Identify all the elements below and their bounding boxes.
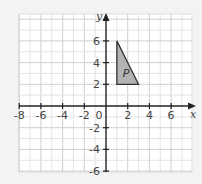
coordinate-grid: P -8-6-4-20246-6-4-2246 x y — [0, 0, 202, 184]
x-tick-label: 2 — [124, 109, 131, 122]
x-tick-label: -6 — [35, 109, 46, 122]
y-tick-label: -4 — [89, 143, 100, 156]
x-tick-label: -2 — [79, 109, 90, 122]
triangle-p-label: P — [123, 67, 130, 80]
y-tick-label: 2 — [93, 78, 100, 91]
x-tick-label: 6 — [168, 109, 175, 122]
x-tick-label: -8 — [14, 109, 25, 122]
y-tick-label: -6 — [89, 165, 100, 178]
x-tick-label: 0 — [96, 109, 103, 122]
x-tick-label: 4 — [146, 109, 153, 122]
y-tick-label: 6 — [93, 35, 100, 48]
x-tick-label: -4 — [57, 109, 68, 122]
x-axis-label: x — [190, 108, 197, 121]
y-tick-label: 4 — [93, 57, 100, 70]
y-tick-label: -2 — [89, 122, 100, 135]
y-axis-label: y — [95, 10, 103, 23]
